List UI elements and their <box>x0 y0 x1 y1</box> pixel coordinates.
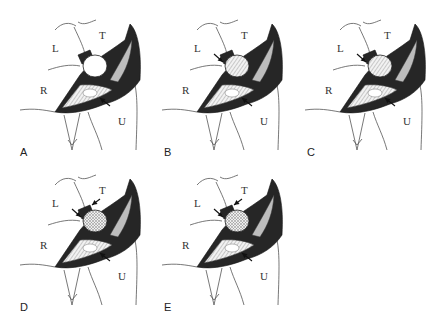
radius-upper-edge <box>333 65 365 70</box>
panel-a: LTRUA <box>0 0 145 155</box>
anatomical-drawing <box>142 155 287 310</box>
arrow-upper-icon <box>92 199 100 205</box>
region-label-u: U <box>260 270 268 282</box>
anatomical-drawing <box>285 0 430 155</box>
region-label-l: L <box>52 197 59 209</box>
central-oval <box>225 55 249 77</box>
region-label-r: R <box>325 84 332 96</box>
radius-lower-edge <box>162 264 197 267</box>
ulna-outer-edge <box>135 85 137 150</box>
region-label-r: R <box>40 239 47 251</box>
region-label-t: T <box>99 29 106 41</box>
upper-contour <box>55 175 96 185</box>
region-label-t: T <box>99 184 106 196</box>
region-label-t: T <box>241 29 248 41</box>
ulna-inner-edge <box>230 267 244 305</box>
lunate-contour <box>74 27 85 55</box>
central-oval <box>83 210 107 232</box>
radius-upper-edge <box>48 220 80 225</box>
radius-lower-edge <box>305 109 340 112</box>
panel-c: LTRUC <box>285 0 430 155</box>
ulna-inner-edge <box>88 267 102 305</box>
region-label-u: U <box>260 115 268 127</box>
ulna-inner-edge <box>88 112 102 150</box>
panel-e: LTRUE <box>142 155 287 310</box>
ulna-outer-edge <box>420 85 422 150</box>
panel-d: LTRUD <box>0 155 145 310</box>
ulna-inner-edge <box>230 112 244 150</box>
upper-contour <box>55 20 96 30</box>
disc-perforation <box>83 244 97 252</box>
lunate-contour <box>359 27 370 55</box>
radius-upper-edge <box>48 65 80 70</box>
central-oval <box>83 55 107 77</box>
ulna-outer-edge <box>277 240 279 305</box>
arrow-upper-icon <box>234 199 242 205</box>
central-oval <box>225 210 249 232</box>
lunate-contour <box>216 182 227 210</box>
upper-contour <box>197 175 238 185</box>
lunate-contour <box>216 27 227 55</box>
panel-label: C <box>307 146 315 158</box>
region-label-t: T <box>241 184 248 196</box>
disc-perforation <box>225 89 239 97</box>
radius-lower-edge <box>20 109 55 112</box>
anatomical-drawing <box>0 155 145 310</box>
anatomical-drawing <box>142 0 287 155</box>
disc-perforation <box>368 89 382 97</box>
upper-contour <box>340 20 381 30</box>
radius-upper-edge <box>190 220 222 225</box>
region-label-u: U <box>118 270 126 282</box>
ulna-inner-edge <box>373 112 387 150</box>
upper-contour <box>197 20 238 30</box>
central-oval <box>368 55 392 77</box>
lunate-contour <box>74 182 85 210</box>
region-label-r: R <box>40 84 47 96</box>
anatomical-drawing <box>0 0 145 155</box>
disc-perforation <box>83 89 97 97</box>
region-label-u: U <box>403 115 411 127</box>
region-label-r: R <box>182 239 189 251</box>
region-label-l: L <box>52 42 59 54</box>
region-label-u: U <box>118 115 126 127</box>
panel-b: LTRUB <box>142 0 287 155</box>
radius-lower-edge <box>20 264 55 267</box>
radius-lower-edge <box>162 109 197 112</box>
region-label-r: R <box>182 84 189 96</box>
ulna-outer-edge <box>277 85 279 150</box>
region-label-l: L <box>194 197 201 209</box>
panel-label: D <box>20 301 28 313</box>
panel-label: E <box>164 301 171 313</box>
radius-upper-edge <box>190 65 222 70</box>
region-label-t: T <box>384 29 391 41</box>
disc-perforation <box>225 244 239 252</box>
ulna-outer-edge <box>135 240 137 305</box>
region-label-l: L <box>337 42 344 54</box>
region-label-l: L <box>194 42 201 54</box>
